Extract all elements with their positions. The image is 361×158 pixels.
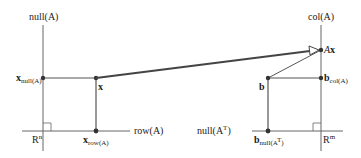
- point-ax: [319, 48, 323, 52]
- right-angle-marker-right: [313, 123, 321, 131]
- ax-label: Ax: [323, 44, 335, 55]
- point-b: [266, 76, 270, 80]
- point-x-row: [94, 129, 99, 134]
- b-label: b: [259, 81, 265, 92]
- b-to-ax-line: [268, 50, 321, 78]
- b-col-label: bcol(A): [324, 72, 349, 85]
- x-null-label: xnull(A): [16, 72, 42, 85]
- mapping-arrow-line: [96, 51, 310, 78]
- right-angle-marker-left: [43, 123, 51, 131]
- rm-label: Rm: [323, 133, 336, 145]
- col-a-label: col(A): [308, 11, 334, 23]
- b-null-label: bnull(AT): [254, 134, 284, 147]
- point-b-col: [319, 76, 323, 80]
- null-at-label: null(AT): [197, 124, 231, 137]
- rn-label: Rn: [32, 133, 43, 145]
- x-row-label: xrow(A): [83, 134, 109, 147]
- four-subspaces-diagram: null(A) row(A) Rn x xnull(A) xrow(A) col…: [0, 0, 361, 158]
- point-b-null: [266, 129, 271, 134]
- null-a-label: null(A): [29, 11, 58, 23]
- x-label: x: [98, 81, 103, 92]
- row-a-label: row(A): [134, 125, 163, 137]
